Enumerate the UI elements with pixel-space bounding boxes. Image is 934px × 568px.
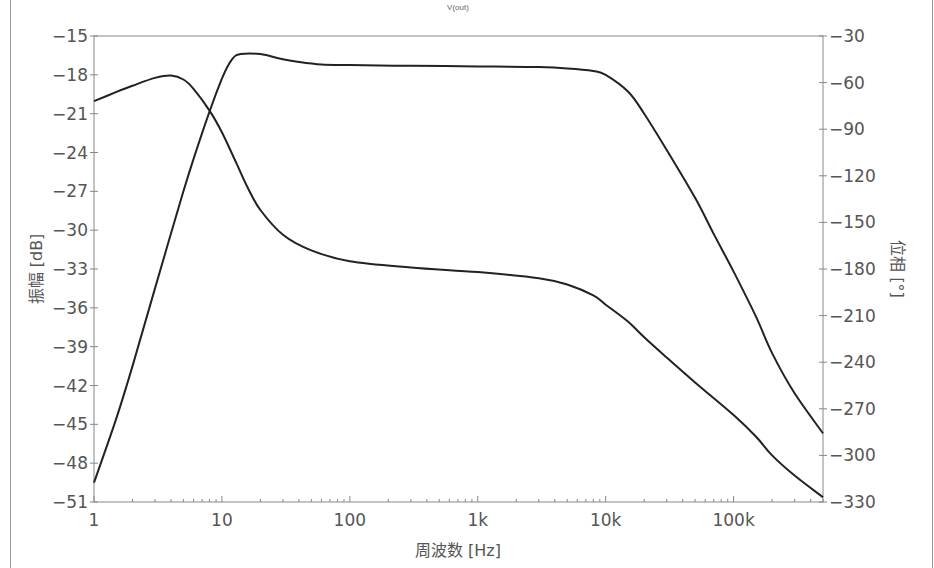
chart-title: V(out) xyxy=(447,3,469,12)
y-tick-label: −30 xyxy=(52,220,88,240)
x-tick-label: 100 xyxy=(334,510,366,530)
y-tick-label: −45 xyxy=(52,414,88,434)
y-tick-label: −33 xyxy=(52,259,88,279)
y2-tick-label: −240 xyxy=(829,352,876,372)
y-tick-label: −21 xyxy=(52,104,88,124)
x-axis-ticks: 1101001k10k100k xyxy=(89,496,823,530)
x-tick-label: 1k xyxy=(467,510,488,530)
y-tick-label: −39 xyxy=(52,337,88,357)
y-tick-label: −24 xyxy=(52,143,88,163)
y2-tick-label: −270 xyxy=(829,399,876,419)
x-tick-label: 100k xyxy=(712,510,754,530)
phase-curve xyxy=(94,76,823,498)
y-axis-right-ticks: −30−60−90−120−150−180−210−240−270−300−33… xyxy=(819,26,876,512)
y2-tick-label: −180 xyxy=(829,259,876,279)
y-axis-right-title: 位相 [°] xyxy=(888,240,907,298)
x-tick-label: 10k xyxy=(590,510,622,530)
plot-area-frame xyxy=(94,36,823,502)
x-axis-title: 周波数 [Hz] xyxy=(415,541,501,560)
y2-tick-label: −210 xyxy=(829,306,876,326)
x-tick-label: 10 xyxy=(211,510,233,530)
y-tick-label: −48 xyxy=(52,453,88,473)
y-tick-label: −27 xyxy=(52,181,88,201)
y-tick-label: −36 xyxy=(52,298,88,318)
y-tick-label: −51 xyxy=(52,492,88,512)
y2-tick-label: −60 xyxy=(829,73,865,93)
y-axis-left-title: 振幅 [dB] xyxy=(27,234,46,305)
y2-tick-label: −150 xyxy=(829,212,876,232)
y2-tick-label: −300 xyxy=(829,445,876,465)
y2-tick-label: −120 xyxy=(829,166,876,186)
y2-tick-label: −330 xyxy=(829,492,876,512)
y2-tick-label: −30 xyxy=(829,26,865,46)
x-tick-label: 1 xyxy=(89,510,100,530)
y-tick-label: −42 xyxy=(52,376,88,396)
y-axis-left-ticks: −15−18−21−24−27−30−33−36−39−42−45−48−51 xyxy=(52,26,98,512)
y-tick-label: −15 xyxy=(52,26,88,46)
bode-plot: V(out) 1101001k10k100k −15−18−21−24−27−3… xyxy=(0,0,934,568)
y2-tick-label: −90 xyxy=(829,119,865,139)
y-tick-label: −18 xyxy=(52,65,88,85)
magnitude-curve xyxy=(94,54,823,483)
